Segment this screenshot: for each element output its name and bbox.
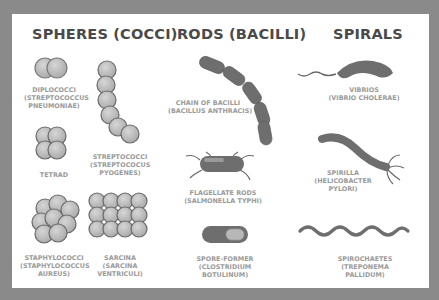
diplococci-icon (35, 58, 67, 78)
label-flagellate-rods: FLAGELLATE RODS (SALMONELLA TYPHI) (180, 189, 266, 205)
label-chain-of-bacilli: CHAIN OF BACILLI (BACILLUS ANTHRACIS) (168, 99, 248, 115)
label-staphylococci: STAPHYLOCOCCI (STAPHYLOCOCCUS AUREUS) (20, 254, 88, 278)
spore-former-icon (202, 226, 248, 243)
staphylococci-icon (32, 195, 79, 243)
sarcina-icon (89, 193, 147, 237)
label-diplococci: DIPLOCOCCI (STREPTOCOCCUS PNEUMONIAE) (24, 86, 84, 110)
vibrio-icon (298, 61, 393, 79)
tetrad-icon (36, 127, 66, 159)
label-vibrios: VIBRIOS (VIBRIO CHOLERAE) (322, 86, 406, 102)
label-tetrad: TETRAD (24, 171, 84, 179)
flagellate-rod-icon (186, 152, 254, 180)
streptococci-icon (97, 61, 139, 143)
label-spirochaetes: SPIROCHAETES (TREPONEMA PALLIDUM) (330, 255, 400, 279)
label-spirilla: SPIRILLA (HELICOBACTER PYLORI) (308, 169, 378, 193)
label-sarcina: SARCINA (SARCINA VENTRICULI) (90, 254, 150, 278)
spirochaete-icon (300, 227, 408, 235)
label-spore-former: SPORE-FORMER (CLOSTRIDIUM BOTULINUM) (185, 255, 265, 279)
label-streptococci: STREPTOCOCCI (STREPTOCOCUS PYOGENES) (90, 153, 150, 177)
